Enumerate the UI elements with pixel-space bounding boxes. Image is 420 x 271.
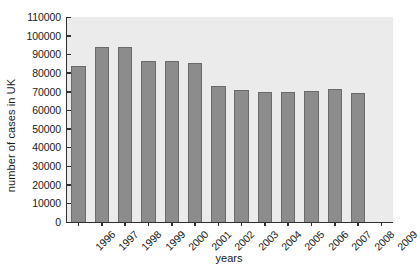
- x-tick-mark: [124, 222, 126, 226]
- y-tick-label: 40000: [32, 140, 61, 154]
- x-tick-label: 1999: [162, 228, 187, 253]
- y-tick-label: 100000: [27, 29, 61, 43]
- y-tick-mark: [67, 110, 71, 112]
- bar-slot: [351, 17, 365, 222]
- x-tick-mark: [241, 222, 243, 226]
- y-tick-mark: [67, 203, 71, 205]
- x-tick-mark: [78, 222, 80, 226]
- bar-slot: [304, 17, 318, 222]
- x-tick-mark: [171, 222, 173, 226]
- x-tick-mark: [357, 222, 359, 226]
- bar-2001: [188, 63, 202, 222]
- x-tick-label: 1996: [92, 228, 117, 253]
- y-tick-label: 0: [55, 215, 61, 229]
- bar-slot: [95, 17, 109, 222]
- y-tick-label: 30000: [32, 159, 61, 173]
- bar-slot: [328, 17, 342, 222]
- y-axis-title: number of cases in UK: [0, 0, 22, 271]
- y-tick-label: 70000: [32, 85, 61, 99]
- x-tick-label: 2002: [232, 228, 257, 253]
- bar-1999: [141, 61, 155, 222]
- bar-slot: [211, 17, 225, 222]
- bar-slot: [141, 17, 155, 222]
- bar-slot: [234, 17, 248, 222]
- y-tick-mark: [67, 128, 71, 130]
- bar-2006: [304, 91, 318, 222]
- y-tick-mark: [67, 54, 71, 56]
- x-tick-mark: [194, 222, 196, 226]
- x-tick-label: 2006: [325, 228, 350, 253]
- bar-1998: [118, 47, 132, 222]
- bar-2003: [234, 90, 248, 222]
- bar-1996: [71, 66, 85, 222]
- y-tick-label: 20000: [32, 178, 61, 192]
- x-tick-label: 2007: [349, 228, 374, 253]
- x-tick-label: 2000: [186, 228, 211, 253]
- y-tick-label: 90000: [32, 47, 61, 61]
- bar-slot: [188, 17, 202, 222]
- bar-slot: [71, 17, 85, 222]
- bar-1997: [95, 47, 109, 222]
- x-tick-mark: [148, 222, 150, 226]
- y-tick-label: 110000: [27, 10, 61, 24]
- bar-2008: [351, 93, 365, 222]
- bar-slot: [258, 17, 272, 222]
- x-tick-label: 2004: [279, 228, 304, 253]
- x-tick-mark: [381, 222, 383, 226]
- x-tick-label: 1997: [116, 228, 141, 253]
- y-tick-mark: [67, 222, 71, 224]
- bar-2002: [211, 86, 225, 222]
- x-tick-label: 2008: [372, 228, 397, 253]
- x-axis-title: years: [66, 252, 392, 264]
- y-tick-mark: [67, 166, 71, 168]
- y-tick-mark: [67, 184, 71, 186]
- x-tick-mark: [287, 222, 289, 226]
- y-tick-mark: [67, 17, 71, 19]
- y-tick-mark: [67, 35, 71, 37]
- x-tick-label: 1998: [139, 228, 164, 253]
- y-tick-mark: [67, 91, 71, 93]
- x-tick-mark: [311, 222, 313, 226]
- bar-slot: [374, 17, 388, 222]
- y-tick-mark: [67, 147, 71, 149]
- x-tick-label: 2005: [302, 228, 327, 253]
- x-tick-label: 2001: [209, 228, 234, 253]
- x-tick-mark: [101, 222, 103, 226]
- plot-inner: 1100001000009000080000700006000050000400…: [67, 17, 393, 222]
- y-tick-mark: [67, 72, 71, 74]
- x-tick-label: 2003: [255, 228, 280, 253]
- y-tick-label: 50000: [32, 122, 61, 136]
- bar-slot: [281, 17, 295, 222]
- plot-area: 1100001000009000080000700006000050000400…: [66, 17, 393, 223]
- x-tick-label: 2009: [395, 228, 420, 253]
- bar-2005: [281, 92, 295, 222]
- bar-2000: [165, 61, 179, 222]
- x-tick-mark: [264, 222, 266, 226]
- y-tick-label: 60000: [32, 103, 61, 117]
- x-tick-mark: [334, 222, 336, 226]
- bar-slot: [165, 17, 179, 222]
- bar-2004: [258, 92, 272, 222]
- bar-slot: [118, 17, 132, 222]
- y-tick-label: 80000: [32, 66, 61, 80]
- x-tick-mark: [218, 222, 220, 226]
- y-tick-label: 10000: [32, 196, 61, 210]
- bar-2007: [328, 89, 342, 222]
